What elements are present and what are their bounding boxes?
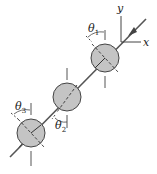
theta-3-symbol: θ <box>15 100 22 113</box>
disk-1 <box>86 30 119 88</box>
theta-1-symbol: θ <box>88 22 95 35</box>
coordinate-axes <box>121 16 141 42</box>
theta-2-symbol: θ <box>55 119 62 132</box>
theta-3-sub: 3 <box>22 107 26 115</box>
theta-2-sub: 2 <box>62 126 66 134</box>
x-axis-label: x <box>143 37 149 48</box>
theta-1-label: θ1 <box>88 23 99 37</box>
y-axis-label: y <box>117 3 123 14</box>
theta-2-label: θ2 <box>55 120 66 134</box>
disk-shaft-diagram <box>0 0 157 174</box>
shaft-arrow-icon <box>128 27 137 36</box>
theta-1-sub: 1 <box>95 29 99 37</box>
theta-3-label: θ3 <box>15 101 26 115</box>
